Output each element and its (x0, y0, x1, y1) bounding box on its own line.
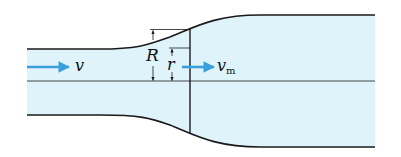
big-radius-label: R (145, 45, 159, 65)
small-radius-label: r (167, 55, 176, 74)
mean-velocity-label: v (217, 56, 226, 75)
mean-velocity-subscript: m (226, 65, 236, 76)
inlet-velocity-label: v (75, 56, 84, 75)
pipe-flow-diagram: R r v v m (0, 0, 401, 157)
